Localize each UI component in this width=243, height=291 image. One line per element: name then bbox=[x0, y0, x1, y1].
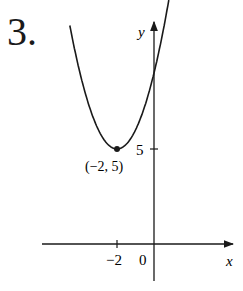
y-tick-label-5: 5 bbox=[136, 142, 144, 158]
x-tick-label--2: −2 bbox=[106, 252, 122, 268]
y-axis-label: y bbox=[136, 24, 145, 40]
origin-label: 0 bbox=[139, 252, 147, 268]
x-axis-label: x bbox=[225, 253, 233, 269]
graph: y x 5 −2 0 (−2, 5) bbox=[0, 0, 243, 291]
vertex-label: (−2, 5) bbox=[85, 159, 124, 175]
vertex-point bbox=[114, 146, 120, 152]
